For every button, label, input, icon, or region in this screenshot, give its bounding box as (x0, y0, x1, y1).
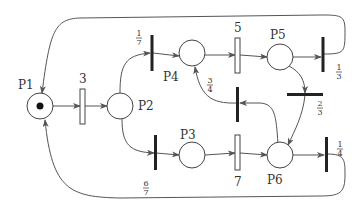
arc-p3-t7 (205, 153, 235, 155)
svg-text:3: 3 (207, 76, 212, 85)
petri-net-diagram: P1 P2 P3 P4 P5 P6 3 5 7 1 7 6 7 1 3 2 3 … (0, 0, 363, 209)
svg-text:7: 7 (136, 38, 141, 47)
place-p3 (179, 142, 205, 168)
transition-t23 (287, 93, 323, 96)
label-t3: 3 (79, 72, 87, 86)
svg-text:4: 4 (337, 149, 342, 158)
token-dot-icon (37, 103, 44, 110)
fraction-1-7: 1 7 (136, 29, 142, 47)
svg-text:3: 3 (336, 72, 341, 81)
svg-text:3: 3 (317, 108, 322, 117)
arc-p5-t23 (289, 66, 305, 93)
fraction-2-3: 2 3 (317, 99, 323, 117)
arc-t7-p6 (240, 153, 267, 155)
place-p6 (267, 142, 293, 168)
arc-p2-t67 (122, 119, 154, 153)
svg-text:2: 2 (317, 99, 322, 108)
svg-text:1: 1 (136, 29, 141, 38)
label-p3: P3 (180, 128, 196, 142)
svg-text:1: 1 (336, 63, 341, 72)
transition-t67 (154, 135, 157, 170)
arc-p2-t17 (120, 53, 150, 93)
arc-t5-p5 (240, 55, 267, 57)
transition-t5 (235, 38, 240, 73)
label-p5: P5 (270, 28, 286, 42)
arc-t17-p4 (153, 53, 179, 56)
arc-t67-p3 (156, 153, 179, 155)
label-t5: 5 (234, 21, 242, 35)
svg-text:6: 6 (143, 179, 148, 188)
arc-t34-p4 (195, 67, 237, 103)
fraction-6-7: 6 7 (143, 179, 149, 197)
transition-t3 (80, 89, 85, 124)
transition-t14 (325, 137, 328, 172)
label-p4: P4 (163, 70, 179, 84)
fraction-1-4: 1 4 (337, 140, 343, 158)
fraction-1-3: 1 3 (336, 63, 342, 81)
transition-t7 (235, 135, 240, 170)
transition-t34 (236, 87, 239, 122)
place-p2 (107, 93, 133, 119)
arc-t23-p6 (288, 95, 305, 145)
label-p2: P2 (138, 99, 154, 113)
label-p6: P6 (267, 173, 283, 187)
label-p1: P1 (18, 78, 34, 92)
svg-text:1: 1 (337, 140, 342, 149)
transition-t13 (322, 37, 325, 72)
fraction-3-4: 3 4 (207, 76, 213, 94)
svg-text:4: 4 (207, 85, 212, 94)
arc-p6-t34 (240, 103, 278, 144)
transition-t17 (151, 35, 154, 71)
label-t7: 7 (234, 175, 242, 189)
place-p5 (267, 44, 293, 70)
place-p4 (179, 40, 205, 66)
svg-text:7: 7 (143, 188, 148, 197)
